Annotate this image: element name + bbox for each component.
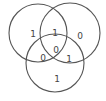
region-top-right-only: 0 (77, 31, 83, 41)
region-top-right-bottom: 1 (66, 54, 72, 64)
region-top-left-only: 1 (30, 29, 36, 39)
region-top-left-top-right: 1 (52, 28, 58, 38)
venn-diagram: 1 1 0 0 0 1 1 (0, 0, 106, 101)
region-top-left-bottom: 0 (40, 53, 46, 63)
region-all-three: 0 (53, 45, 59, 55)
region-bottom-only: 1 (54, 74, 60, 84)
